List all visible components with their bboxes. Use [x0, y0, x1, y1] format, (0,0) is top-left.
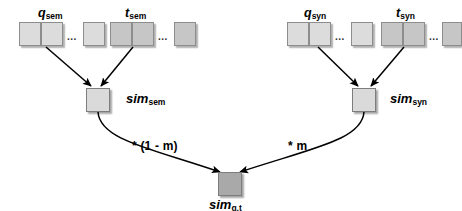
- vector-cell-q-syn-last: [351, 22, 373, 46]
- edge-tsem-to-simsem: [101, 47, 133, 86]
- vector-cell-t-syn-last: [442, 22, 462, 46]
- node-sim-sem: [86, 88, 110, 112]
- vector-label-q-sem: qsem: [38, 7, 63, 20]
- vector-label-q-syn: qsyn: [304, 7, 326, 20]
- vector-label-t-syn: tsyn: [396, 7, 415, 20]
- vector-cell-q-sem-last: [83, 22, 105, 46]
- edge-qsyn-to-simsyn: [318, 47, 358, 86]
- diagram-canvas: qsem ... tsem ... qsyn ... tsyn ... sims…: [0, 0, 462, 211]
- vector-cell-t-syn-1: [381, 22, 403, 46]
- vector-cell-q-sem-2: [41, 22, 63, 46]
- vector-ellipsis-t-sem: ...: [158, 32, 168, 42]
- vector-cell-t-sem-last: [174, 22, 196, 46]
- vector-cell-t-syn-2: [403, 22, 425, 46]
- vector-ellipsis-q-sem: ...: [67, 32, 77, 42]
- edge-weight-left: * (1 - m): [132, 140, 178, 152]
- node-label-sim-sem: simsem: [126, 92, 165, 105]
- vector-cell-q-syn-2: [309, 22, 331, 46]
- vector-label-t-sem: tsem: [125, 7, 146, 20]
- edge-weight-right: * m: [288, 140, 307, 152]
- edge-qsem-to-simsem: [46, 47, 91, 86]
- node-sim-qt: [218, 172, 242, 196]
- vector-ellipsis-t-syn: ...: [429, 32, 439, 42]
- edge-tsyn-to-simsyn: [371, 47, 404, 86]
- node-sim-syn: [352, 88, 376, 112]
- vector-ellipsis-q-syn: ...: [335, 32, 345, 42]
- vector-cell-t-sem-1: [110, 22, 132, 46]
- vector-cell-t-sem-2: [132, 22, 154, 46]
- vector-cell-q-syn-1: [287, 22, 309, 46]
- node-label-sim-syn: simsyn: [390, 92, 427, 105]
- node-label-sim-qt: simq,t: [209, 198, 242, 211]
- vector-cell-q-sem-1: [19, 22, 41, 46]
